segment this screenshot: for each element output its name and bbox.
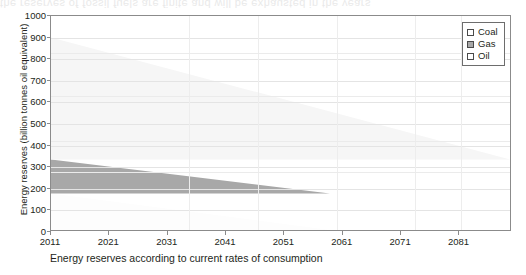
y-tick-label: 600: [0, 96, 46, 107]
x-tick-label: 2061: [331, 236, 352, 247]
legend-swatch-gas: [467, 41, 474, 48]
x-tick-label: 2011: [40, 236, 60, 247]
x-tick-mark: [225, 231, 226, 235]
bleed-line-vertical: [337, 16, 338, 230]
gridline-horizontal: [51, 81, 510, 82]
legend-label-coal: Coal: [478, 26, 498, 38]
x-tick-mark: [50, 231, 51, 235]
page-bleed-text: the reserves of fossil fuels are finite …: [0, 0, 526, 10]
legend-item-oil[interactable]: Oil: [467, 50, 498, 62]
legend-swatch-coal: [467, 29, 474, 36]
gridline-horizontal: [51, 146, 510, 147]
y-tick-label: 500: [0, 118, 46, 129]
y-tick-mark: [47, 80, 51, 81]
y-tick-mark: [47, 209, 51, 210]
gridline-horizontal: [51, 210, 510, 211]
legend-label-gas: Gas: [478, 38, 495, 50]
plot-area: [50, 15, 511, 231]
gridline-horizontal: [51, 167, 510, 168]
y-tick-mark: [47, 101, 51, 102]
x-tick-mark: [458, 231, 459, 235]
y-tick-mark: [47, 58, 51, 59]
bleed-line-vertical: [258, 16, 259, 230]
chart-figure: the reserves of fossil fuels are finite …: [0, 0, 526, 275]
y-tick-label: 100: [0, 204, 46, 215]
bleed-line-vertical: [189, 16, 190, 230]
y-tick-label: 200: [0, 182, 46, 193]
y-tick-mark: [47, 188, 51, 189]
y-tick-mark: [47, 166, 51, 167]
area-series-oil: [51, 194, 330, 230]
y-tick-label: 700: [0, 74, 46, 85]
y-tick-label: 0: [0, 226, 46, 237]
y-tick-label: 800: [0, 53, 46, 64]
x-tick-mark: [283, 231, 284, 235]
y-tick-mark: [47, 37, 51, 38]
x-tick-label: 2041: [214, 236, 235, 247]
legend-item-coal[interactable]: Coal: [467, 26, 498, 38]
x-tick-label: 2051: [273, 236, 294, 247]
y-tick-mark: [47, 145, 51, 146]
y-tick-label: 300: [0, 161, 46, 172]
y-tick-label: 400: [0, 139, 46, 150]
bleed-line-horizontal: [51, 172, 510, 173]
gridline-horizontal: [51, 102, 510, 103]
x-tick-mark: [108, 231, 109, 235]
gridline-horizontal: [51, 189, 510, 190]
y-tick-label: 1000: [0, 10, 46, 21]
legend-item-gas[interactable]: Gas: [467, 38, 498, 50]
legend-label-oil: Oil: [478, 50, 490, 62]
plot-inner: [51, 16, 510, 230]
legend-swatch-oil: [467, 53, 474, 60]
x-tick-mark: [342, 231, 343, 235]
x-tick-mark: [167, 231, 168, 235]
x-tick-label: 2071: [390, 236, 411, 247]
x-tick-mark: [400, 231, 401, 235]
y-tick-mark: [47, 15, 51, 16]
chart-legend: Coal Gas Oil: [462, 22, 505, 66]
x-tick-label: 2081: [448, 236, 469, 247]
x-axis-title: Energy reserves according to current rat…: [50, 252, 323, 264]
gridline-horizontal: [51, 38, 510, 39]
gridline-horizontal: [51, 124, 510, 125]
x-tick-label: 2021: [98, 236, 119, 247]
bleed-line-horizontal: [51, 141, 510, 142]
bleed-line-horizontal: [51, 96, 510, 97]
x-tick-label: 2031: [156, 236, 177, 247]
series-areas: [51, 16, 510, 230]
y-tick-label: 900: [0, 31, 46, 42]
y-tick-mark: [47, 123, 51, 124]
bleed-line-horizontal: [51, 53, 510, 54]
gridline-horizontal: [51, 59, 510, 60]
bleed-line-vertical: [415, 16, 416, 230]
